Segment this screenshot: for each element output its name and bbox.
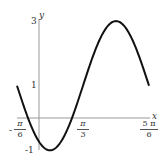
- x-tick-end-den: 6: [140, 130, 158, 139]
- x-tick-mid-den: 3: [77, 130, 89, 139]
- x-tick-end-num: 5 π: [140, 120, 158, 130]
- y-axis-label: y: [39, 11, 44, 20]
- x-tick-neg-pi-6: π 6: [14, 120, 26, 139]
- x-tick-neg-sign: -: [9, 126, 12, 135]
- y-tick-minus-1: -1: [25, 146, 34, 155]
- x-tick-neg-den: 6: [14, 130, 26, 139]
- x-tick-neg-num: π: [14, 120, 26, 130]
- y-tick-1: 1: [31, 81, 37, 90]
- x-tick-pi-3: π 3: [77, 120, 89, 139]
- x-tick-mid-num: π: [77, 120, 89, 130]
- x-tick-5pi-6: 5 π 6: [140, 120, 158, 139]
- y-tick-3: 3: [31, 17, 37, 26]
